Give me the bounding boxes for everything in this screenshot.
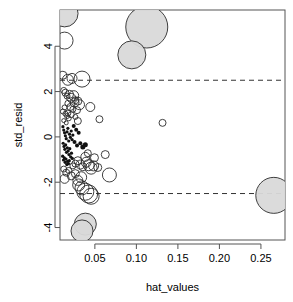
data-point xyxy=(75,144,79,148)
data-point xyxy=(68,147,71,150)
reference-lines xyxy=(60,80,285,193)
data-points-group xyxy=(51,0,292,242)
data-point xyxy=(101,151,109,159)
y-tick-label: 2 xyxy=(42,89,54,95)
data-point xyxy=(83,188,99,204)
y-tick-label: -4 xyxy=(42,223,54,233)
data-point xyxy=(65,130,68,133)
data-point xyxy=(64,121,68,125)
plot-border xyxy=(60,10,285,240)
data-point xyxy=(62,129,65,132)
data-point xyxy=(70,129,73,132)
data-point xyxy=(74,118,81,125)
data-point xyxy=(67,139,70,142)
x-tick-label: 0.10 xyxy=(126,252,147,264)
x-tick-label: 0.25 xyxy=(250,252,271,264)
data-point xyxy=(71,157,74,160)
data-point xyxy=(83,142,88,147)
y-tick-label: 4 xyxy=(42,43,54,49)
x-tick-label: 0.15 xyxy=(167,252,188,264)
data-point xyxy=(64,134,67,137)
data-point xyxy=(71,220,93,242)
data-point xyxy=(102,168,116,182)
data-point xyxy=(70,152,73,155)
x-tick-label: 0.20 xyxy=(209,252,230,264)
data-point xyxy=(62,119,66,123)
y-axis: 420-2-4 xyxy=(42,43,60,232)
data-point xyxy=(94,163,102,171)
scatter-plot-figure: 0.050.100.150.200.25 420-2-4 hat_values … xyxy=(0,0,293,302)
data-point xyxy=(72,124,76,128)
data-point xyxy=(66,127,69,130)
data-point xyxy=(96,116,103,123)
y-axis-title: std_resid xyxy=(12,103,24,148)
data-point xyxy=(64,143,67,146)
data-point xyxy=(74,71,90,87)
data-point xyxy=(71,133,74,136)
data-point xyxy=(77,131,81,135)
data-point xyxy=(118,41,146,69)
data-point xyxy=(256,177,292,213)
x-axis-title: hat_values xyxy=(146,281,200,293)
data-point xyxy=(78,141,82,145)
data-point xyxy=(67,162,70,165)
data-point xyxy=(68,133,71,136)
data-point xyxy=(86,102,95,111)
data-point xyxy=(159,119,166,126)
plot-canvas: 0.050.100.150.200.25 420-2-4 hat_values … xyxy=(0,0,293,302)
data-point xyxy=(65,137,68,140)
data-point xyxy=(51,0,78,27)
data-point xyxy=(73,140,77,144)
data-point xyxy=(68,159,71,162)
y-tick-label: 0 xyxy=(42,134,54,140)
y-tick-label: -2 xyxy=(42,177,54,187)
plot-frame xyxy=(60,10,285,240)
x-tick-label: 0.05 xyxy=(84,252,105,264)
x-axis: 0.050.100.150.200.25 xyxy=(84,244,271,264)
data-point xyxy=(74,128,78,132)
data-point xyxy=(61,125,64,128)
